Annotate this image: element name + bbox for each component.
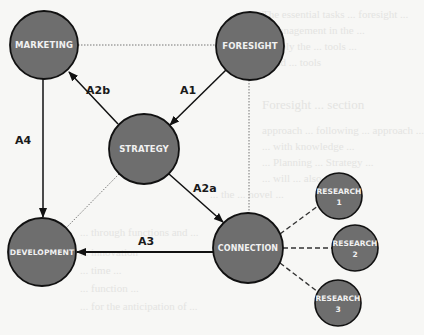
node-label-research-3: RESEARCH [316,294,361,303]
node-research-2: RESEARCH 2 [332,225,378,271]
node-label-marketing: MARKETING [15,40,73,50]
arrow-a1-foresight-to-strategy [170,70,226,125]
node-label-connection: CONNECTION [218,244,278,253]
node-development: DEVELOPMENT [8,218,76,286]
dashed-line-connection-research3 [280,263,318,292]
node-foresight: FORESIGHT [216,12,284,80]
arrow-a2b-strategy-to-marketing [69,72,118,124]
node-label-development: DEVELOPMENT [10,248,75,257]
edge-label-a3: A3 [138,235,154,248]
node-research-1: RESEARCH 1 [316,173,362,219]
node-strategy: STRATEGY [109,114,179,184]
edge-label-a4: A4 [15,134,32,147]
node-marketing: MARKETING [10,11,78,79]
dotted-line-strategy-development [67,174,119,227]
node-number-research-1: 1 [336,198,341,207]
node-research-3: RESEARCH 3 [315,280,361,326]
node-label-research-1: RESEARCH [317,187,362,196]
edge-label-a2b: A2b [86,84,110,97]
dashed-line-connection-research1 [280,206,318,234]
edge-label-a1: A1 [180,84,196,97]
node-number-research-2: 2 [352,250,357,259]
node-label-foresight: FORESIGHT [222,41,278,51]
node-number-research-3: 3 [335,305,340,314]
edge-label-a2a: A2a [193,182,217,195]
node-label-research-2: RESEARCH [333,239,378,248]
node-connection: CONNECTION [213,213,283,283]
node-label-strategy: STRATEGY [119,144,169,154]
